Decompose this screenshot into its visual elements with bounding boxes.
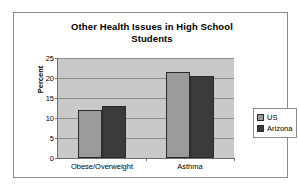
chart-title-line-1: Other Health Issues in High School [32,21,272,33]
chart-legend: USArizona [253,108,297,138]
plot-area: 0510152025Obese/OverweightAsthma [57,58,234,159]
y-axis-tick-mark [55,158,58,159]
y-axis-tick-mark [55,98,58,99]
y-axis-tick-mark [55,58,58,59]
chart-title: Other Health Issues in High School Stude… [32,21,272,45]
y-axis-tick-label: 0 [50,154,54,163]
legend-item-label: Arizona [267,124,292,133]
legend-item: US [257,112,292,123]
bar-us-asthma [166,72,190,158]
y-axis-tick-label: 5 [50,134,54,143]
chart-title-line-2: Students [32,33,272,45]
y-axis-tick-mark [55,78,58,79]
x-axis-category-label: Asthma [177,162,202,171]
legend-swatch-icon [257,125,264,132]
y-axis-tick-label: 25 [46,54,54,63]
y-axis-tick-label: 20 [46,74,54,83]
legend-swatch-icon [257,114,264,121]
legend-item: Arizona [257,123,292,134]
y-axis-tick-label: 10 [46,114,54,123]
bar-us-obese-overweight [78,110,102,158]
bar-arizona-asthma [190,76,214,158]
x-axis-tick-mark [146,158,147,161]
bar-arizona-obese-overweight [102,106,126,158]
y-axis-tick-label: 15 [46,94,54,103]
y-axis-title: Percent [36,50,45,110]
y-axis-tick-mark [55,138,58,139]
x-axis-category-label: Obese/Overweight [71,162,133,171]
chart-frame: Other Health Issues in High School Stude… [13,12,288,178]
gridline [58,58,234,59]
legend-item-label: US [267,113,277,122]
y-axis-tick-mark [55,118,58,119]
x-axis-tick-mark [234,158,235,161]
